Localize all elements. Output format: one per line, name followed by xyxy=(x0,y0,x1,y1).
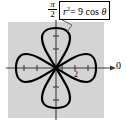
horizontal-axis-label: 0 xyxy=(116,60,121,71)
equation-equals: = 9 xyxy=(70,6,83,17)
equation-angle: θ xyxy=(101,6,106,17)
polar-graph-figure: π 2 0 2 r2= 9 cos θ xyxy=(0,0,127,127)
equation-callout-box: r2= 9 cos θ xyxy=(59,1,110,20)
x-tick-label-2: 2 xyxy=(72,70,80,79)
equation-trig: cos xyxy=(86,6,99,17)
